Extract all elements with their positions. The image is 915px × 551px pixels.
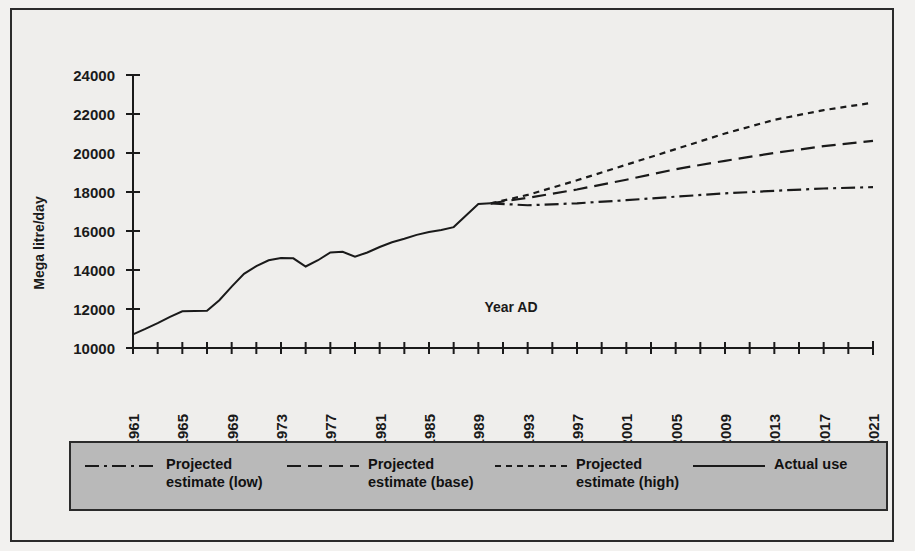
x-axis-title: Year AD	[484, 299, 537, 315]
y-axis-title: Mega litre/day	[31, 196, 47, 290]
legend-label: Projected estimate (base)	[368, 455, 474, 491]
y-tick-label: 10000	[73, 340, 115, 357]
y-tick-label: 12000	[73, 301, 115, 318]
y-tick-label: 14000	[73, 262, 115, 279]
legend-swatch-dash-dot	[85, 458, 157, 474]
legend-entry: Projected estimate (low)	[85, 455, 263, 491]
legend-entry: Projected estimate (base)	[287, 455, 474, 491]
y-tick-label: 24000	[73, 67, 115, 84]
legend-label: Actual use	[774, 455, 847, 473]
series-actual-use	[133, 203, 491, 334]
legend-label: Projected estimate (high)	[576, 455, 679, 491]
legend-label: Projected estimate (low)	[166, 455, 263, 491]
legend-swatch-solid	[693, 458, 765, 474]
chart-legend: Projected estimate (low)Projected estima…	[69, 441, 888, 511]
y-tick-label: 18000	[73, 184, 115, 201]
y-tick-label: 16000	[73, 223, 115, 240]
y-tick-label: 22000	[73, 106, 115, 123]
series-projected-estimate-base	[491, 141, 873, 203]
chart-figure: 1000012000140001600018000200002200024000…	[0, 0, 915, 551]
legend-entry: Projected estimate (high)	[495, 455, 679, 491]
legend-swatch-dashed	[287, 458, 359, 474]
legend-swatch-dotted	[495, 458, 567, 474]
legend-entry: Actual use	[693, 455, 847, 474]
y-tick-label: 20000	[73, 145, 115, 162]
